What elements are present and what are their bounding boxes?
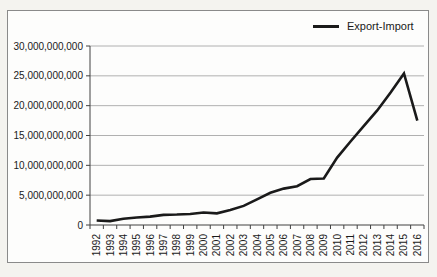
legend-label: Export-Import bbox=[347, 19, 414, 33]
x-tick-label: 2007 bbox=[292, 234, 303, 257]
x-tick-label: 2015 bbox=[398, 234, 409, 257]
x-tick-label: 1995 bbox=[131, 234, 142, 257]
x-tick-label: 1998 bbox=[171, 234, 182, 257]
y-tick-label: 5,000,000,000 bbox=[19, 190, 83, 201]
legend-line-sample bbox=[313, 25, 339, 28]
x-tick-label: 2003 bbox=[238, 234, 249, 257]
x-tick-label: 2004 bbox=[252, 234, 263, 257]
x-tick-label: 2009 bbox=[318, 234, 329, 257]
line-chart: 05,000,000,00010,000,000,00015,000,000,0… bbox=[8, 11, 428, 262]
y-tick-label: 20,000,000,000 bbox=[13, 100, 83, 111]
x-tick-label: 2011 bbox=[345, 234, 356, 256]
x-tick-label: 1999 bbox=[185, 234, 196, 257]
chart-legend: Export-Import bbox=[313, 19, 414, 33]
x-tick-label: 2010 bbox=[332, 234, 343, 257]
y-tick-label: 10,000,000,000 bbox=[13, 160, 83, 171]
x-tick-label: 1996 bbox=[145, 234, 156, 257]
page-background: 05,000,000,00010,000,000,00015,000,000,0… bbox=[0, 0, 437, 277]
y-tick-label: 30,000,000,000 bbox=[13, 41, 83, 52]
x-tick-label: 2006 bbox=[278, 234, 289, 257]
x-tick-label: 2012 bbox=[358, 234, 369, 257]
x-tick-label: 2013 bbox=[372, 234, 383, 257]
series-export-import-line bbox=[97, 73, 418, 221]
x-tick-label: 2005 bbox=[265, 234, 276, 257]
y-tick-label: 0 bbox=[77, 220, 83, 231]
y-tick-label: 15,000,000,000 bbox=[13, 130, 83, 141]
x-tick-label: 2016 bbox=[412, 234, 423, 257]
x-tick-label: 2001 bbox=[211, 234, 222, 257]
x-tick-label: 2008 bbox=[305, 234, 316, 257]
y-tick-label: 25,000,000,000 bbox=[13, 70, 83, 81]
x-tick-label: 1992 bbox=[91, 234, 102, 257]
x-tick-label: 2002 bbox=[225, 234, 236, 257]
x-tick-label: 2014 bbox=[385, 234, 396, 257]
x-tick-label: 2000 bbox=[198, 234, 209, 257]
x-tick-label: 1997 bbox=[158, 234, 169, 257]
chart-container: 05,000,000,00010,000,000,00015,000,000,0… bbox=[7, 10, 429, 263]
x-tick-label: 1993 bbox=[105, 234, 116, 257]
x-tick-label: 1994 bbox=[118, 234, 129, 257]
